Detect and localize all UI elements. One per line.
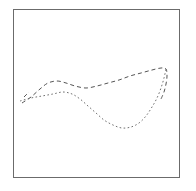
plot-frame xyxy=(13,9,180,178)
plot-screenshot xyxy=(0,0,196,191)
